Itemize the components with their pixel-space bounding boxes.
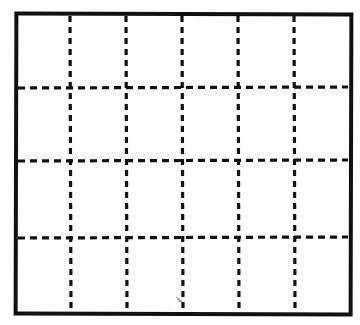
vertical-dashed-line [294, 16, 295, 311]
vertical-dashed-line [70, 16, 71, 311]
grid-lines [0, 0, 360, 325]
vertical-dashed-line [238, 16, 239, 311]
vertical-dashed-line [182, 16, 183, 311]
stray-mark-icon [176, 296, 184, 303]
vertical-dashed-line [126, 16, 127, 311]
vertical-dashed-lines [70, 16, 295, 311]
